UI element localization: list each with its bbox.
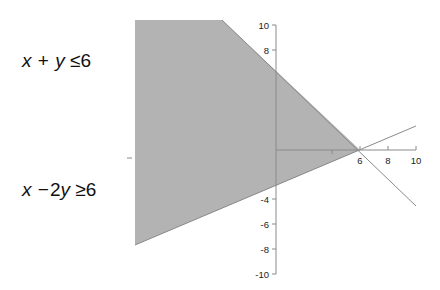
inequality-graph: 10 8 -4 -6 -8 -10 6 8 10 [0, 0, 440, 290]
var-y: y [60, 179, 70, 200]
var-x: x [22, 50, 32, 71]
rhs: 6 [80, 50, 91, 71]
y-tick-label: -10 [255, 269, 269, 280]
y-tick-label: -8 [261, 244, 269, 255]
x-tick-label: 8 [385, 155, 390, 166]
feasible-region [135, 20, 360, 245]
operator: + [38, 50, 49, 71]
rhs: 6 [86, 179, 97, 200]
relation: ≤ [70, 50, 80, 71]
inequality-label-1: x + y ≤6 [22, 50, 91, 72]
y-tick-label: 8 [264, 45, 269, 56]
var-y: y [55, 50, 65, 71]
var-x: x [22, 179, 32, 200]
x-tick-label: 10 [411, 155, 422, 166]
y-tick-label: 10 [258, 20, 269, 31]
y-tick-label: -4 [261, 194, 269, 205]
relation: ≥ [75, 179, 85, 200]
x-tick-label: 6 [357, 155, 362, 166]
inequality-label-2: x −2y ≥6 [22, 179, 96, 201]
y-tick-label: -6 [261, 219, 269, 230]
coefficient: 2 [50, 179, 61, 200]
operator: − [38, 179, 49, 200]
